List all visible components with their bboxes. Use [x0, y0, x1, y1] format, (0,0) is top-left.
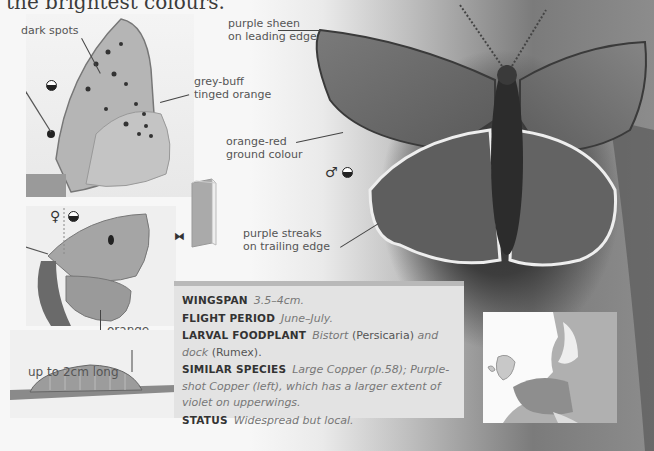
- underside-view-icon: [46, 80, 57, 91]
- info-wingspan: WINGSPAN3.5–4cm.: [182, 292, 454, 310]
- label-dark-spots: dark spots: [21, 24, 79, 37]
- female-upperside-view-icon: [68, 211, 79, 222]
- europe-map-illustration: [483, 312, 617, 423]
- female-symbol: ♀: [50, 209, 60, 223]
- female-butterfly-illustration: [26, 206, 176, 326]
- book-icon: [190, 177, 218, 249]
- info-larval-foodplant: LARVAL FOODPLANTBistort (Persicaria) and…: [182, 327, 454, 361]
- heading-fragment: the brightest colours.: [6, 0, 225, 14]
- leader-purple-sheen: [278, 30, 320, 31]
- label-grey-buff: grey-buff tinged orange: [194, 75, 271, 101]
- info-status: STATUSWidespread but local.: [182, 412, 454, 430]
- label-purple-streaks: purple streaks on trailing edge: [243, 227, 330, 253]
- underside-butterfly-illustration: [26, 14, 194, 197]
- male-symbol: ♂: [325, 165, 338, 179]
- info-similar-species: SIMILAR SPECIESLarge Copper (p.58); Purp…: [182, 361, 454, 412]
- field-guide-page: the brightest colours.: [0, 0, 654, 451]
- species-info-box: WINGSPAN3.5–4cm. FLIGHT PERIODJune–July.…: [174, 281, 464, 418]
- label-orange-red: orange-red ground colour: [226, 135, 302, 161]
- butterfly-icon: ⧓: [174, 230, 185, 243]
- info-flight-period: FLIGHT PERIODJune–July.: [182, 310, 454, 328]
- underside-photo-panel: [26, 14, 194, 197]
- female-photo-panel: [26, 206, 176, 326]
- upperside-view-icon: [342, 167, 353, 178]
- distribution-map: [483, 312, 617, 423]
- label-caterpillar-length: up to 2cm long: [28, 366, 119, 379]
